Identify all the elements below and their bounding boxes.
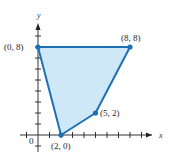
x-axis-arrow-icon [146, 133, 152, 138]
y-axis-arrow-icon [36, 23, 41, 30]
vertex-8-8 [127, 44, 132, 49]
vertex-5-2 [93, 110, 98, 115]
vertex-2-0 [58, 132, 63, 137]
vertex-label-8-8: (8, 8) [121, 33, 141, 43]
vertex-label-5-2: (5, 2) [100, 108, 120, 118]
feasible-region [38, 47, 130, 135]
vertex-0-8 [35, 44, 40, 49]
vertex-label-0-8: (0, 8) [4, 42, 24, 52]
y-axis-label: y [36, 11, 41, 20]
origin-label: 0 [29, 136, 34, 146]
vertex-label-2-0: (2, 0) [51, 141, 71, 151]
feasible-region-figure: y x 0 (0, 8) (8, 8) (5, 2) (2, 0) [0, 0, 173, 160]
x-axis-label: x [158, 131, 163, 140]
